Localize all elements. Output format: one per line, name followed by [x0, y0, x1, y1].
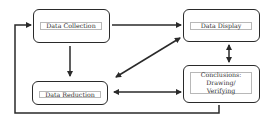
- node-label: Conclusions: Drawing/ Verifying: [190, 72, 252, 94]
- node-data-display: Data Display: [183, 9, 260, 42]
- node-label: Data Display: [190, 22, 252, 30]
- arrow-display-reduction: [116, 38, 180, 77]
- node-label-line1: Conclusions:: [201, 71, 242, 79]
- node-label: Data Reduction: [39, 91, 101, 98]
- node-label-line2: Drawing/ Verifying: [191, 79, 251, 95]
- node-label: Data Collection: [40, 22, 102, 30]
- node-data-reduction: Data Reduction: [32, 81, 108, 105]
- node-data-collection: Data Collection: [33, 9, 110, 43]
- node-conclusions: Conclusions: Drawing/ Verifying: [183, 65, 260, 103]
